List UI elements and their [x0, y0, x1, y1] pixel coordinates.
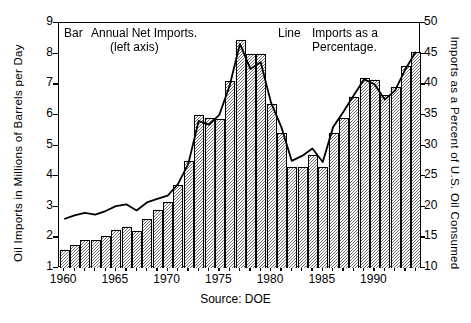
y-axis-right-tick-50: 50: [424, 14, 450, 28]
y-axis-left-tick-9: 9: [29, 14, 53, 28]
chart-canvas: [59, 23, 421, 268]
y-axis-right-tick-45: 45: [424, 45, 450, 59]
x-axis-tick-1970: 1970: [145, 272, 189, 286]
y-axis-left-tick-7: 7: [29, 75, 53, 89]
y-axis-right-tick-10: 10: [424, 259, 450, 273]
y-axis-right-tick-40: 40: [424, 75, 450, 89]
plot-area: [58, 22, 420, 267]
y-axis-left-tick-3: 3: [29, 198, 53, 212]
legend-bar-key: Bar: [64, 26, 83, 40]
x-axis-tick-1965: 1965: [93, 272, 137, 286]
y-axis-right-title: Imports as a Percent of U.S. Oil Consume…: [449, 28, 461, 278]
legend-bar-label-line1: Annual Net Imports.: [91, 26, 197, 40]
x-axis-tick-1985: 1985: [300, 272, 344, 286]
y-axis-left-tick-1: 1: [29, 259, 53, 273]
x-axis-tick-1975: 1975: [196, 272, 240, 286]
y-axis-right-tick-20: 20: [424, 198, 450, 212]
legend-line-label-line1: Imports as a: [312, 26, 378, 40]
y-axis-left-title: Oil Imports in Millions of Barrels per D…: [12, 28, 24, 278]
y-axis-left-tick-6: 6: [29, 106, 53, 120]
y-axis-right-tick-25: 25: [424, 167, 450, 181]
legend-bar-label-line2: (left axis): [110, 40, 159, 54]
chart-figure: Oil Imports in Millions of Barrels per D…: [0, 0, 471, 323]
y-axis-left-tick-4: 4: [29, 167, 53, 181]
x-axis-tick-1990: 1990: [351, 272, 395, 286]
source-caption: Source: DOE: [0, 292, 471, 306]
y-axis-left-tick-2: 2: [29, 228, 53, 242]
x-axis-tick-1960: 1960: [41, 272, 85, 286]
legend-line-key: Line: [278, 26, 301, 40]
y-axis-left-tick-5: 5: [29, 137, 53, 151]
y-axis-right-tick-30: 30: [424, 137, 450, 151]
y-axis-right-tick-35: 35: [424, 106, 450, 120]
y-tick-mark-left: [53, 267, 58, 268]
legend-line-label-line2: Percentage.: [312, 40, 377, 54]
y-axis-right-tick-15: 15: [424, 228, 450, 242]
x-axis-tick-1980: 1980: [248, 272, 292, 286]
y-axis-left-tick-8: 8: [29, 45, 53, 59]
